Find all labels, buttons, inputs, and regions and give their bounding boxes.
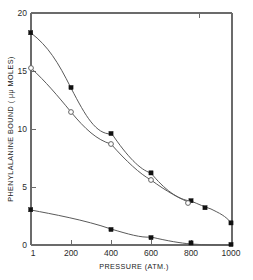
y-axis-title: PHENYLALANINE BOUND ( μμ MOLES): [6, 56, 15, 202]
x-tick-label-1000: 1000: [222, 248, 241, 258]
markers-filled-series: [29, 31, 233, 225]
data-point-filled-200: [69, 85, 73, 89]
y-tick-label-15: 15: [18, 66, 28, 76]
chart-canvas: 20 15 10 5 0 1 200 400 600 800 1000 PRES…: [0, 0, 253, 280]
chart-figure: 20 15 10 5 0 1 200 400 600 800 1000 PRES…: [0, 0, 253, 280]
x-tick-label-800: 800: [184, 248, 198, 258]
data-point-lower-400: [109, 227, 113, 231]
data-point-open-200: [69, 110, 74, 115]
data-point-open-1: [29, 66, 34, 71]
data-point-lower-1: [29, 208, 33, 212]
data-point-lower-600: [149, 236, 153, 240]
curve-filled-series: [31, 33, 231, 223]
y-tick-label-5: 5: [22, 182, 27, 192]
data-point-filled-400: [109, 131, 113, 135]
data-point-filled-1: [29, 31, 33, 35]
data-point-lower-800: [189, 241, 193, 245]
data-point-open-400: [109, 142, 114, 147]
y-tick-label-10: 10: [18, 124, 28, 134]
data-point-filled-600: [149, 171, 153, 175]
x-tick-label-400: 400: [104, 248, 118, 258]
series-curves: [31, 33, 231, 245]
y-tick-label-0: 0: [22, 240, 27, 250]
curve-lower-series: [31, 210, 231, 245]
x-tick-label-600: 600: [144, 248, 158, 258]
x-tick-label-1: 1: [31, 248, 36, 258]
plot-frame: [31, 13, 232, 245]
x-tick-label-200: 200: [64, 248, 78, 258]
markers-lower-series: [29, 208, 233, 247]
data-point-lower-1000: [229, 242, 233, 246]
data-point-open-800: [186, 201, 191, 206]
y-tick-label-20: 20: [18, 8, 28, 18]
data-point-filled-1000: [229, 221, 233, 225]
x-axis-title: PRESSURE (ATM.): [99, 262, 169, 271]
data-point-open-600: [149, 178, 154, 183]
data-point-filled-870: [203, 206, 207, 210]
